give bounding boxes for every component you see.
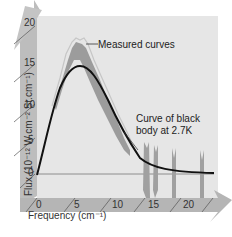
y-tick-15: 15 xyxy=(24,57,36,68)
blackbody-label-line2: body at 2.7K xyxy=(136,125,192,136)
x-tick-20: 20 xyxy=(183,199,195,210)
x-tick-0: 0 xyxy=(36,199,42,210)
x-axis-title: Frequency (cm⁻¹) xyxy=(28,210,106,221)
x-tick-5: 5 xyxy=(74,199,80,210)
y-axis-title: Flux (10⁻¹² W.cm⁻² Sr.cm⁻¹) xyxy=(23,72,34,196)
chart: 20 15 10 5 0 0 5 10 15 20 Flux (10⁻¹² W.… xyxy=(0,0,232,237)
y-tick-20: 20 xyxy=(24,17,36,28)
x-tick-10: 10 xyxy=(112,199,124,210)
blackbody-label-line1: Curve of black xyxy=(136,113,201,124)
measured-curves-label: Measured curves xyxy=(98,39,175,50)
x-tick-15: 15 xyxy=(148,199,160,210)
